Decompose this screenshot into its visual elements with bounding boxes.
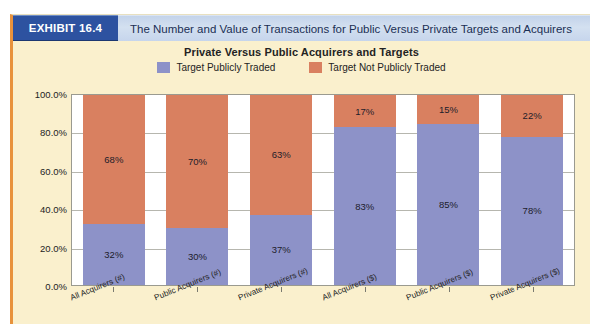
bar-value-label: 22% bbox=[523, 110, 542, 121]
chart-title: Private Versus Public Acquirers and Targ… bbox=[13, 41, 590, 58]
bar-segment[interactable]: 85% bbox=[417, 124, 479, 286]
bar-column[interactable]: 70%30% bbox=[166, 95, 228, 285]
bar-segment[interactable]: 63% bbox=[250, 95, 312, 215]
bar-value-label: 17% bbox=[355, 106, 374, 117]
x-axis-tick bbox=[281, 287, 282, 292]
bar-segment[interactable]: 68% bbox=[83, 95, 145, 224]
x-axis-tick bbox=[365, 287, 366, 292]
bar-value-label: 15% bbox=[439, 104, 458, 115]
legend-item[interactable]: Target Publicly Traded bbox=[157, 62, 275, 73]
bar-segment[interactable]: 15% bbox=[417, 95, 479, 124]
x-axis: All Acquirers (#)Public Acquirers (#)Pri… bbox=[71, 287, 575, 327]
bar-value-label: 32% bbox=[104, 249, 123, 260]
y-axis-tick-label: 60.0% bbox=[40, 165, 67, 176]
y-axis-tick-label: 100.0% bbox=[35, 89, 67, 100]
chart-legend: Target Publicly TradedTarget Not Publicl… bbox=[13, 62, 590, 73]
legend-label: Target Publicly Traded bbox=[176, 62, 275, 73]
bar-segment[interactable]: 22% bbox=[501, 95, 563, 137]
bar-value-label: 68% bbox=[104, 154, 123, 165]
bar-column[interactable]: 68%32% bbox=[83, 95, 145, 285]
plot-area: 68%32%70%30%63%37%17%83%15%85%22%78% bbox=[71, 94, 575, 286]
x-axis-tick bbox=[533, 287, 534, 292]
bar-segment[interactable]: 70% bbox=[166, 95, 228, 228]
bar-value-label: 37% bbox=[272, 244, 291, 255]
y-axis-tick-label: 20.0% bbox=[40, 242, 67, 253]
y-axis: 0.0%20.0%40.0%60.0%80.0%100.0% bbox=[13, 94, 71, 286]
legend-label: Target Not Publicly Traded bbox=[328, 62, 445, 73]
bar-value-label: 30% bbox=[188, 251, 207, 262]
bar-value-label: 78% bbox=[523, 205, 542, 216]
plot-wrapper: 0.0%20.0%40.0%60.0%80.0%100.0% 68%32%70%… bbox=[13, 94, 590, 325]
exhibit-frame: EXHIBIT 16.4 The Number and Value of Tra… bbox=[10, 14, 590, 324]
chart-area: Private Versus Public Acquirers and Targ… bbox=[13, 41, 590, 324]
exhibit-title: The Number and Value of Transactions for… bbox=[118, 15, 590, 41]
bar-value-label: 83% bbox=[355, 201, 374, 212]
bar-column[interactable]: 17%83% bbox=[334, 95, 396, 285]
bar-series-group: 68%32%70%30%63%37%17%83%15%85%22%78% bbox=[72, 95, 574, 285]
bar-column[interactable]: 22%78% bbox=[501, 95, 563, 285]
x-axis-tick bbox=[113, 287, 114, 292]
bar-value-label: 85% bbox=[439, 199, 458, 210]
x-axis-tick bbox=[197, 287, 198, 292]
bar-value-label: 70% bbox=[188, 156, 207, 167]
y-axis-tick-label: 0.0% bbox=[45, 281, 67, 292]
bar-value-label: 63% bbox=[272, 149, 291, 160]
bar-segment[interactable]: 83% bbox=[334, 127, 396, 285]
y-axis-tick-label: 80.0% bbox=[40, 127, 67, 138]
legend-item[interactable]: Target Not Publicly Traded bbox=[309, 62, 445, 73]
exhibit-header: EXHIBIT 16.4 The Number and Value of Tra… bbox=[13, 15, 590, 41]
bar-column[interactable]: 63%37% bbox=[250, 95, 312, 285]
legend-swatch-icon bbox=[157, 62, 170, 73]
y-axis-tick-label: 40.0% bbox=[40, 204, 67, 215]
x-axis-tick bbox=[449, 287, 450, 292]
legend-swatch-icon bbox=[309, 62, 322, 73]
bar-segment[interactable]: 17% bbox=[334, 95, 396, 127]
bar-column[interactable]: 15%85% bbox=[417, 95, 479, 285]
bar-segment[interactable]: 78% bbox=[501, 137, 563, 285]
exhibit-badge: EXHIBIT 16.4 bbox=[13, 15, 118, 41]
